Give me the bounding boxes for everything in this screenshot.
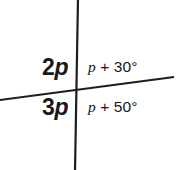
angle-label-top-right: p + 30° bbox=[88, 59, 138, 75]
angle-label-top-left-variable: p bbox=[55, 54, 69, 80]
angle-diagram-figure: 2p 3p p + 30° p + 50° bbox=[0, 0, 178, 170]
vertical-line bbox=[75, 0, 78, 170]
angle-label-bottom-left-variable: p bbox=[55, 94, 69, 120]
angle-label-top-left-text: 2 bbox=[42, 54, 55, 80]
angle-label-top-right-unit: ° bbox=[131, 58, 137, 75]
angle-label-bottom-right: p + 50° bbox=[88, 99, 138, 115]
angle-label-bottom-left: 3p bbox=[42, 96, 68, 119]
angle-label-bottom-right-operator: + bbox=[100, 98, 109, 115]
diagram-lines-group bbox=[0, 0, 178, 170]
angle-label-bottom-left-text: 3 bbox=[42, 94, 55, 120]
angle-label-top-right-constant: 30 bbox=[114, 58, 131, 75]
angle-label-bottom-right-constant: 50 bbox=[114, 98, 131, 115]
angle-label-bottom-right-variable: p bbox=[88, 98, 96, 115]
angle-label-top-right-operator: + bbox=[100, 58, 109, 75]
angle-label-bottom-right-unit: ° bbox=[131, 98, 137, 115]
angle-label-top-right-variable: p bbox=[88, 58, 96, 75]
slanted-line bbox=[0, 77, 174, 100]
angle-label-top-left: 2p bbox=[42, 56, 68, 79]
